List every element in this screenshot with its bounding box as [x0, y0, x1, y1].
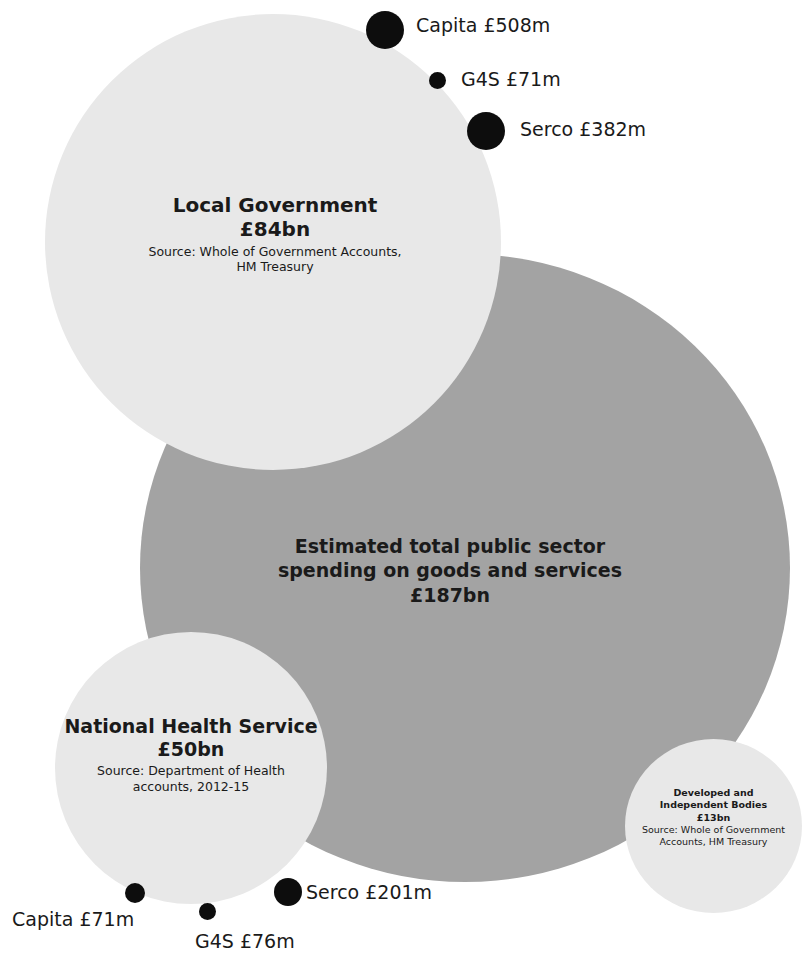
local-government-source-line1: Source: Whole of Government Accounts,	[120, 244, 430, 259]
nhs-capita-dot	[125, 883, 145, 903]
local-government-source: Source: Whole of Government Accounts, HM…	[120, 244, 430, 275]
total-spending-label: Estimated total public sector spending o…	[250, 534, 650, 607]
developed-bodies-title-line1: Developed and	[625, 787, 802, 799]
local-government-label: Local Government £84bn Source: Whole of …	[120, 193, 430, 274]
total-spending-line1: Estimated total public sector	[250, 534, 650, 558]
nhs-title: National Health Service	[56, 715, 326, 738]
total-spending-value: £187bn	[250, 583, 650, 607]
nhs-value: £50bn	[56, 738, 326, 761]
lg-serco-label: Serco £382m	[520, 120, 646, 139]
lg-capita-label: Capita £508m	[416, 16, 550, 35]
nhs-g4s-dot	[199, 903, 216, 920]
lg-serco-dot	[467, 112, 505, 150]
nhs-g4s-label: G4S £76m	[195, 932, 295, 951]
lg-g4s-label: G4S £71m	[461, 70, 561, 89]
developed-bodies-source-line1: Source: Whole of Government	[625, 824, 802, 836]
nhs-source-line2: accounts, 2012-15	[56, 779, 326, 794]
local-government-source-line2: HM Treasury	[120, 259, 430, 274]
local-government-title: Local Government	[120, 193, 430, 217]
developed-bodies-value: £13bn	[625, 812, 802, 824]
developed-bodies-title-line2: Independent Bodies	[625, 799, 802, 811]
lg-g4s-dot	[429, 72, 446, 89]
nhs-label: National Health Service £50bn Source: De…	[56, 715, 326, 794]
total-spending-line2: spending on goods and services	[250, 558, 650, 582]
nhs-source: Source: Department of Health accounts, 2…	[56, 763, 326, 794]
nhs-serco-label: Serco £201m	[306, 883, 432, 902]
nhs-source-line1: Source: Department of Health	[56, 763, 326, 778]
developed-bodies-label: Developed and Independent Bodies £13bn S…	[625, 787, 802, 849]
nhs-capita-label: Capita £71m	[12, 910, 134, 929]
developed-bodies-source-line2: Accounts, HM Treasury	[625, 836, 802, 848]
lg-capita-dot	[366, 11, 404, 49]
nhs-serco-dot	[274, 878, 302, 906]
local-government-value: £84bn	[120, 217, 430, 241]
